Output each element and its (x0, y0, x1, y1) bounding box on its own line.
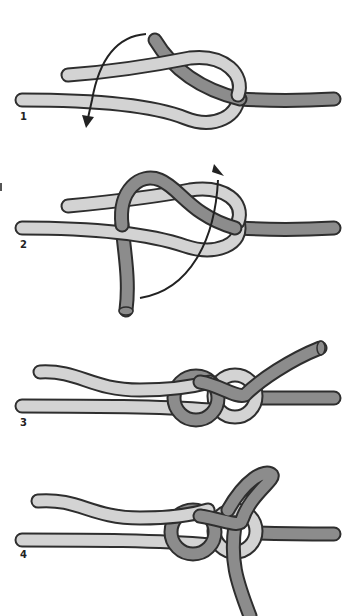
step-4-label: 4 (20, 549, 27, 560)
step-3-label: 3 (20, 417, 27, 428)
arrow-down-icon (82, 115, 94, 128)
step-1-label: 1 (20, 111, 27, 122)
step-2-diagram: 2 (0, 150, 350, 320)
step-2-illustration (0, 150, 350, 320)
step-1-illustration (0, 0, 350, 150)
step-1-diagram: 1 (0, 0, 350, 150)
step-4-illustration (0, 450, 350, 616)
arrow-up-icon (212, 164, 224, 176)
step-4-diagram: 4 (0, 450, 350, 616)
step-3-illustration (0, 320, 350, 450)
step-3-diagram: 3 (0, 320, 350, 450)
step-2-label: 2 (20, 239, 27, 250)
